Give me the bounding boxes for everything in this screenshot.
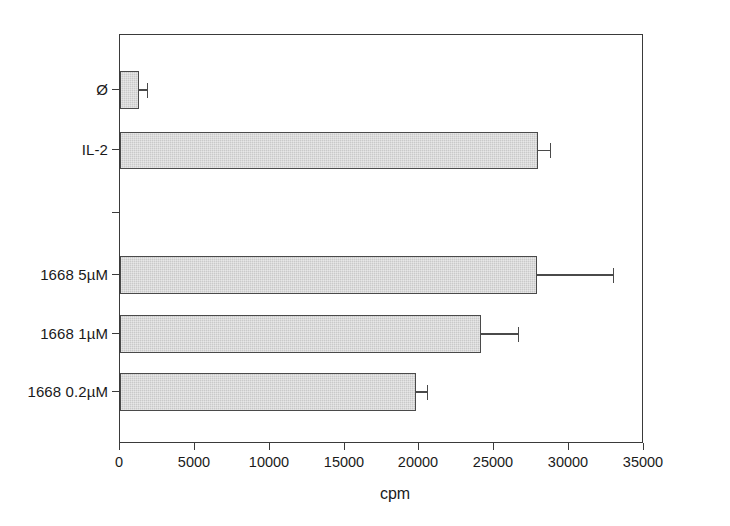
y-tick-0 [112, 89, 119, 90]
bar-1668-02um [120, 373, 416, 411]
bar-chart: Ø IL-2 1668 5µM 1668 1µM 1668 0.2µM 0 50… [0, 0, 730, 526]
error-bar-il2 [538, 150, 550, 151]
x-tick-0 [119, 443, 120, 450]
x-tick-3 [344, 443, 345, 450]
x-axis-title-text: cpm [380, 485, 410, 502]
error-cap-il2 [550, 143, 551, 158]
x-axis-label-2: 10000 [249, 455, 289, 470]
y-axis-label-il2: IL-2 [82, 142, 108, 157]
bar-row-1668-1um [120, 315, 642, 353]
x-tick-6 [568, 443, 569, 450]
bar-1668-5um [120, 256, 537, 294]
x-axis-label-7: 35000 [623, 455, 663, 470]
bar-row-1668-02um [120, 373, 642, 411]
error-cap-1668-1um [518, 327, 519, 342]
plot-area [119, 34, 643, 443]
y-axis-label-blank: Ø [96, 82, 108, 97]
error-cap-blank [147, 83, 148, 98]
x-axis-label-4: 20000 [398, 455, 438, 470]
bar-1668-1um [120, 315, 481, 353]
x-tick-2 [269, 443, 270, 450]
error-bar-1668-02um [416, 391, 427, 392]
error-bar-1668-1um [481, 333, 518, 334]
x-axis-label-6: 30000 [548, 455, 588, 470]
bar-blank [120, 71, 139, 109]
y-axis-label-1668-02um: 1668 0.2µM [27, 384, 108, 399]
x-axis-label-1: 5000 [178, 455, 210, 470]
bar-row-1668-5um [120, 256, 642, 294]
x-tick-1 [194, 443, 195, 450]
x-axis-label-5: 25000 [473, 455, 513, 470]
error-bar-blank [139, 89, 147, 90]
error-cap-1668-02um [427, 385, 428, 400]
x-axis-label-0: 0 [115, 455, 123, 470]
bar-il2 [120, 132, 538, 169]
y-tick-1 [112, 149, 119, 150]
x-axis-label-3: 15000 [324, 455, 364, 470]
y-tick-5 [112, 391, 119, 392]
error-cap-1668-5um [613, 268, 614, 283]
y-tick-3 [112, 274, 119, 275]
bar-row-il2 [120, 132, 642, 169]
bar-row-blank [120, 71, 642, 109]
x-axis-title: cpm [0, 486, 730, 502]
error-bar-1668-5um [537, 274, 613, 275]
y-axis-label-1668-1um: 1668 1µM [40, 326, 108, 341]
x-tick-5 [493, 443, 494, 450]
y-tick-4 [112, 333, 119, 334]
y-axis-label-1668-5um: 1668 5µM [40, 267, 108, 282]
y-tick-2 [112, 212, 119, 213]
x-tick-7 [643, 443, 644, 450]
x-tick-4 [418, 443, 419, 450]
